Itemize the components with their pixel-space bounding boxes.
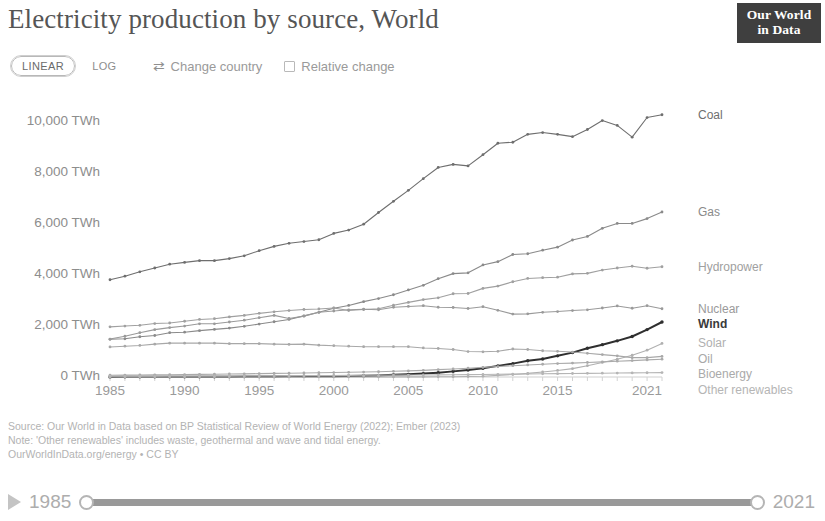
- series-point: [601, 269, 604, 272]
- series-label-other-renewables[interactable]: Other renewables: [698, 383, 793, 397]
- series-point: [228, 374, 231, 377]
- series-point: [646, 267, 649, 270]
- series-point: [407, 301, 410, 304]
- series-point: [392, 370, 395, 373]
- series-point: [317, 374, 320, 377]
- series-point: [303, 343, 306, 346]
- x-axis-tick-label: 2005: [378, 383, 438, 398]
- series-point: [392, 293, 395, 296]
- footer-license[interactable]: OurWorldInData.org/energy • CC BY: [8, 447, 460, 461]
- timeline-slider[interactable]: [79, 493, 764, 511]
- series-point: [586, 235, 589, 238]
- y-axis-tick-label: 2,000 TWh: [0, 317, 100, 332]
- series-label-coal[interactable]: Coal: [698, 108, 723, 122]
- series-point: [317, 238, 320, 241]
- series-point: [347, 374, 350, 377]
- series-point: [422, 177, 425, 180]
- series-point: [213, 328, 216, 331]
- series-point: [288, 242, 291, 245]
- series-point: [392, 306, 395, 309]
- series-point: [586, 364, 589, 367]
- footer-source: Source: Our World in Data based on BP St…: [8, 419, 460, 433]
- series-point: [556, 354, 559, 357]
- timeline-bar[interactable]: [89, 499, 754, 506]
- series-point: [482, 350, 485, 353]
- timeline-handle-end[interactable]: [750, 495, 765, 510]
- series-line-wind[interactable]: [110, 322, 662, 377]
- series-point: [362, 300, 365, 303]
- y-axis-tick-label: 10,000 TWh: [0, 113, 100, 128]
- timeline-end-year: 2021: [773, 491, 815, 513]
- series-point: [138, 331, 141, 334]
- series-point: [347, 304, 350, 307]
- series-point: [168, 331, 171, 334]
- series-point: [661, 355, 664, 358]
- series-point: [288, 343, 291, 346]
- series-point: [482, 373, 485, 376]
- series-label-bioenergy[interactable]: Bioenergy: [698, 367, 752, 381]
- change-country-button[interactable]: ⇄ Change country: [153, 59, 263, 74]
- series-point: [437, 166, 440, 169]
- series-line-nuclear[interactable]: [110, 306, 662, 339]
- series-point: [362, 308, 365, 311]
- series-point: [467, 367, 470, 370]
- series-point: [631, 136, 634, 139]
- series-point: [437, 368, 440, 371]
- series-point: [661, 211, 664, 214]
- our-world-in-data-logo[interactable]: Our World in Data: [737, 3, 821, 43]
- series-point: [452, 348, 455, 351]
- series-point: [377, 374, 380, 377]
- series-point: [496, 285, 499, 288]
- series-label-gas[interactable]: Gas: [698, 205, 720, 219]
- series-point: [496, 365, 499, 368]
- footer-note: Note: 'Other renewables' includes waste,…: [8, 433, 460, 447]
- series-point: [258, 312, 261, 315]
- series-line-coal[interactable]: [110, 115, 662, 280]
- series-label-wind[interactable]: Wind: [698, 317, 727, 331]
- series-point: [660, 320, 663, 323]
- y-axis-tick-label: 0 TWh: [0, 368, 100, 383]
- series-point: [124, 325, 127, 328]
- series-point: [556, 369, 559, 372]
- series-point: [317, 371, 320, 374]
- series-point: [661, 371, 664, 374]
- series-label-solar[interactable]: Solar: [698, 336, 726, 350]
- series-point: [407, 369, 410, 372]
- series-label-hydropower[interactable]: Hydropower: [698, 260, 763, 274]
- series-point: [198, 259, 201, 262]
- series-point: [661, 265, 664, 268]
- series-point: [601, 343, 604, 346]
- series-point: [332, 374, 335, 377]
- series-point: [422, 347, 425, 350]
- series-point: [452, 272, 455, 275]
- series-point: [571, 239, 574, 242]
- series-point: [526, 348, 529, 351]
- series-label-oil[interactable]: Oil: [698, 352, 713, 366]
- relative-change-toggle[interactable]: Relative change: [284, 59, 394, 74]
- series-point: [258, 316, 261, 319]
- series-point: [645, 328, 648, 331]
- series-point: [317, 308, 320, 311]
- series-point: [392, 345, 395, 348]
- series-label-nuclear[interactable]: Nuclear: [698, 302, 739, 316]
- series-point: [556, 350, 559, 353]
- y-axis-tick-label: 8,000 TWh: [0, 164, 100, 179]
- series-point: [213, 317, 216, 320]
- timeline-handle-start[interactable]: [79, 495, 94, 510]
- series-point: [317, 344, 320, 347]
- series-point: [273, 314, 276, 317]
- timeline-control: 1985 2021: [0, 487, 825, 517]
- scale-log-button[interactable]: LOG: [82, 56, 126, 76]
- series-point: [467, 292, 470, 295]
- series-point: [183, 375, 186, 378]
- series-point: [482, 366, 485, 369]
- play-icon[interactable]: [8, 494, 21, 510]
- scale-linear-button[interactable]: LINEAR: [11, 56, 75, 76]
- series-point: [347, 345, 350, 348]
- series-point: [213, 342, 216, 345]
- y-axis-tick-label: 6,000 TWh: [0, 215, 100, 230]
- series-point: [109, 325, 112, 328]
- relative-change-checkbox[interactable]: [284, 61, 295, 72]
- series-point: [467, 271, 470, 274]
- series-point: [556, 276, 559, 279]
